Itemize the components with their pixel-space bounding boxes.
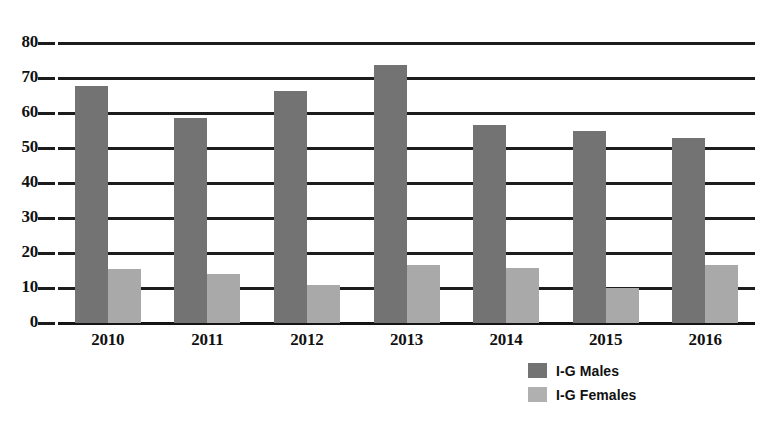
bar-2015-males <box>573 131 606 324</box>
y-axis-label-0: 0 <box>0 312 38 332</box>
gridline-80 <box>58 42 755 45</box>
legend-label-males: I-G Males <box>556 363 619 379</box>
y-axis-label-40: 40 <box>0 172 38 192</box>
y-axis-label-60: 60 <box>0 102 38 122</box>
y-tick-mark-10 <box>38 287 55 290</box>
y-axis-label-10: 10 <box>0 277 38 297</box>
y-tick-mark-70 <box>38 77 55 80</box>
y-tick-mark-0 <box>38 322 55 325</box>
bar-2014-males <box>473 125 506 323</box>
gridline-40 <box>58 182 755 185</box>
plot-area: 0102030405060708020102011201220132014201… <box>58 43 755 323</box>
chart-legend: I-G Males I-G Females <box>528 360 636 408</box>
legend-swatch-males-icon <box>528 363 547 378</box>
y-axis-label-50: 50 <box>0 137 38 157</box>
bar-2012-females <box>307 285 340 324</box>
bar-2011-females <box>207 274 240 323</box>
x-axis-label-2012: 2012 <box>257 330 357 350</box>
bar-2010-females <box>108 269 141 323</box>
y-tick-mark-40 <box>38 182 55 185</box>
bar-2016-females <box>705 265 738 323</box>
y-tick-mark-60 <box>38 112 55 115</box>
y-axis-label-30: 30 <box>0 207 38 227</box>
y-axis-label-70: 70 <box>0 67 38 87</box>
x-axis-label-2011: 2011 <box>158 330 258 350</box>
gridline-50 <box>58 147 755 150</box>
y-tick-mark-50 <box>38 147 55 150</box>
x-axis-label-2010: 2010 <box>58 330 158 350</box>
y-tick-mark-80 <box>38 42 55 45</box>
gridline-20 <box>58 252 755 255</box>
x-axis-label-2014: 2014 <box>456 330 556 350</box>
bar-2013-males <box>374 65 407 323</box>
y-axis-label-20: 20 <box>0 242 38 262</box>
gridline-30 <box>58 217 755 220</box>
bar-2013-females <box>407 265 440 323</box>
bar-2010-males <box>75 86 108 323</box>
y-tick-mark-20 <box>38 252 55 255</box>
bar-2015-females <box>606 288 639 323</box>
y-axis-label-80: 80 <box>0 32 38 52</box>
y-tick-mark-30 <box>38 217 55 220</box>
legend-label-females: I-G Females <box>556 387 636 403</box>
bar-chart: 0102030405060708020102011201220132014201… <box>0 0 784 431</box>
gridline-70 <box>58 77 755 80</box>
x-axis-label-2015: 2015 <box>556 330 656 350</box>
legend-item-females: I-G Females <box>528 384 636 405</box>
gridline-60 <box>58 112 755 115</box>
legend-item-males: I-G Males <box>528 360 636 381</box>
bar-2012-males <box>274 91 307 323</box>
bar-2011-males <box>174 118 207 323</box>
legend-swatch-females-icon <box>528 387 547 402</box>
bar-2016-males <box>672 138 705 324</box>
bar-2014-females <box>506 268 539 323</box>
x-axis-label-2013: 2013 <box>357 330 457 350</box>
x-axis-label-2016: 2016 <box>655 330 755 350</box>
